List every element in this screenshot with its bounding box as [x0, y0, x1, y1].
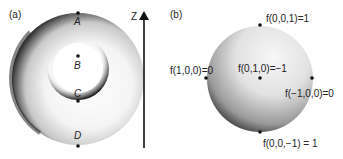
point-c-marker — [76, 99, 80, 103]
point-bottom-marker — [258, 130, 262, 134]
point-a-label: A — [74, 16, 81, 27]
point-right-label: f(−1,0,0)=0 — [285, 88, 334, 99]
point-c-label: C — [74, 88, 81, 99]
z-axis-label: Z — [131, 11, 137, 22]
point-left-marker — [204, 76, 208, 80]
point-b-marker — [76, 54, 80, 58]
point-left-label: f(1,0,0)=0 — [170, 65, 213, 76]
point-top-marker — [258, 23, 262, 27]
point-a-marker — [76, 11, 80, 15]
point-right-marker — [310, 76, 314, 80]
panel-b-label: (b) — [170, 9, 182, 20]
torus — [11, 13, 144, 145]
point-d-label: D — [74, 130, 81, 141]
point-bottom-label: f(0,0,−1) = 1 — [263, 138, 317, 149]
panel-a-label: (a) — [9, 9, 21, 20]
point-center-label: f(0,1,0)=−1 — [238, 63, 287, 74]
point-d-marker — [76, 144, 80, 148]
point-b-label: B — [74, 60, 81, 71]
point-top-label: f(0,0,1)=1 — [266, 13, 309, 24]
point-center-marker — [258, 76, 262, 80]
